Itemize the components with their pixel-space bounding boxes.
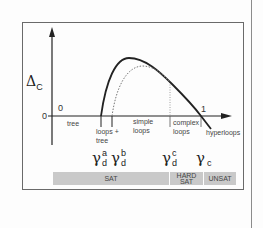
region-complex-loops-1: complex — [173, 119, 199, 126]
y-axis-label: ΔC — [26, 74, 43, 88]
x-end-label: 1 — [201, 105, 206, 114]
region-tree: tree — [67, 120, 79, 127]
region-simple-loops-1: simple — [133, 118, 153, 125]
region-hyperloops: hyperloops — [206, 129, 240, 136]
phase-unsat: UNSAT — [204, 172, 236, 185]
y-axis-arrow-icon — [49, 27, 55, 37]
x-axis-arrow-icon — [221, 113, 232, 119]
region-complex-loops-2: loops — [173, 128, 190, 135]
x-start-label: 0 — [58, 104, 63, 113]
threshold-gamma-c: γ c — [196, 150, 205, 166]
threshold-gamma-d-b: γ b d — [111, 150, 120, 166]
region-loops-tree-1: loops + — [96, 128, 119, 135]
region-loops-tree-2: tree — [96, 137, 108, 144]
region-simple-loops-2: loops — [133, 127, 150, 134]
phase-hard-sat: HARDSAT — [170, 172, 203, 185]
phase-sat: SAT — [53, 172, 169, 185]
phase-diagram-plot — [0, 0, 263, 228]
origin-label: 0 — [42, 112, 47, 121]
threshold-gamma-d-a: γ a d — [92, 150, 101, 166]
threshold-gamma-d-c: γ c d — [162, 150, 171, 166]
